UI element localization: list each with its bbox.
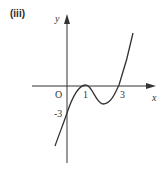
x-axis-arrow-icon <box>146 83 156 89</box>
x-axis-label: x <box>152 92 156 103</box>
y-axis-arrow-icon <box>64 14 70 24</box>
y-axis <box>64 14 70 163</box>
x-axis <box>32 83 156 89</box>
origin-label: O <box>55 89 62 100</box>
x-tick-1: 1 <box>83 89 88 100</box>
x-tick-3: 3 <box>120 89 125 100</box>
y-axis-label: y <box>55 13 59 24</box>
graph <box>0 0 167 175</box>
y-tick-minus-3: -3 <box>54 108 62 119</box>
